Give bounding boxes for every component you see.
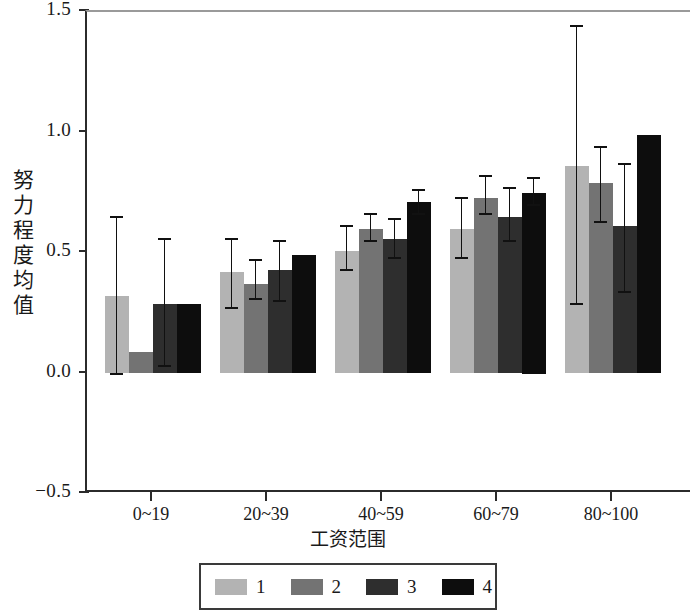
error-bar-cap-upper [249,259,262,261]
plot-area [85,10,690,492]
error-bar-cap-upper [412,189,425,191]
error-bar [418,190,419,214]
figure-bar-chart: 努力程度均值 1.51.00.50.0−0.5 0~1920~3940~5960… [0,0,696,610]
legend-swatch [291,579,323,595]
bar [153,304,177,374]
error-bar-cap-upper [273,240,286,242]
bar [522,193,546,374]
y-axis-title-char: 努 [8,168,38,193]
legend-swatch [366,579,398,595]
bar [450,229,474,374]
error-bar [509,188,510,241]
legend-item: 3 [366,576,417,598]
legend-item: 4 [442,576,493,598]
bar [292,255,316,373]
error-bar-cap-lower [249,298,262,300]
x-axis-tick-label: 80~100 [551,504,671,525]
error-bar-cap-upper [618,163,631,165]
error-bar [164,239,165,367]
error-bar-cap-lower [225,307,238,309]
bar [474,198,498,374]
bar [589,183,613,373]
legend-label: 2 [332,576,342,598]
error-bar-cap-upper [527,177,540,179]
error-bar-cap-lower [455,257,468,259]
bar [359,229,383,374]
x-axis-tick-mark [610,492,612,501]
error-bar [279,241,280,301]
bar [220,272,244,373]
bar [105,296,129,373]
legend-label: 4 [483,576,493,598]
error-bar-cap-upper [340,225,353,227]
legend-swatch [442,579,474,595]
legend-item: 1 [215,576,266,598]
y-axis-title-char: 度 [8,243,38,268]
bar [129,352,153,374]
error-bar-cap-lower [110,373,123,375]
error-bar-cap-lower [364,240,377,242]
error-bar-cap-upper [594,146,607,148]
y-axis-title: 努力程度均值 [8,168,38,318]
error-bar-cap-upper [110,216,123,218]
legend-item: 2 [291,576,342,598]
error-bar-cap-upper [570,25,583,27]
y-axis-title-char: 程 [8,218,38,243]
y-axis-title-char: 力 [8,193,38,218]
x-axis-tick-label: 0~19 [91,504,211,525]
error-bar-cap-upper [503,187,516,189]
error-bar-cap-lower [412,213,425,215]
bar [565,166,589,373]
error-bar [231,239,232,309]
error-bar [346,226,347,269]
y-axis-title-char: 均 [8,268,38,293]
x-axis-tick-mark [495,492,497,501]
bar [637,135,661,374]
error-bar-cap-lower [503,240,516,242]
bar [177,304,201,374]
error-bar [370,214,371,241]
legend: 1234 [199,563,497,610]
x-axis-tick-mark [150,492,152,501]
error-bar-cap-lower [388,257,401,259]
error-bar [600,147,601,222]
x-axis-title: 工资范围 [0,524,696,551]
error-bar-cap-lower [158,365,171,367]
error-bar [533,178,534,205]
y-axis-tick-label: 0.5 [46,239,71,261]
error-bar-cap-lower [618,291,631,293]
error-bar-cap-upper [388,218,401,220]
y-axis-tick-label: −0.5 [35,480,71,502]
error-bar-cap-lower [340,269,353,271]
error-bar-cap-lower [479,213,492,215]
error-bar [394,219,395,258]
error-bar-cap-upper [225,238,238,240]
legend-label: 1 [256,576,266,598]
error-bar [624,164,625,292]
bar [407,202,431,373]
bar [268,270,292,374]
x-axis-tick-label: 20~39 [206,504,326,525]
x-axis-tick-mark [265,492,267,501]
x-axis-tick-label: 60~79 [436,504,556,525]
error-bar-cap-upper [158,238,171,240]
legend-label: 3 [407,576,417,598]
error-bar-cap-lower [570,303,583,305]
y-axis-tick-label: 0.0 [46,360,71,382]
error-bar [116,217,117,374]
error-bar-cap-lower [594,221,607,223]
error-bar [461,198,462,258]
error-bar-cap-upper [479,175,492,177]
error-bar-cap-lower [527,204,540,206]
error-bar-cap-lower [273,300,286,302]
error-bar [576,26,577,303]
error-bar-cap-upper [364,213,377,215]
x-axis-tick-label: 40~59 [321,504,441,525]
y-axis-tick-label: 1.0 [46,119,71,141]
bar [613,226,637,373]
error-bar [485,176,486,215]
legend-swatch [215,579,247,595]
x-axis-tick-mark [380,492,382,501]
y-axis-title-char: 值 [8,293,38,318]
y-axis-tick-label: 1.5 [46,0,71,20]
